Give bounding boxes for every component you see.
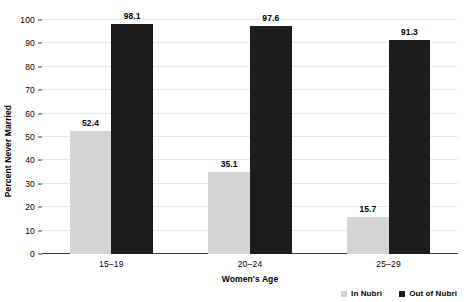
plot-area: 52.498.115–1935.197.620–2415.791.325–29: [42, 20, 458, 254]
legend-swatch: [399, 291, 405, 297]
y-tick-label: 40: [25, 155, 35, 165]
y-tick-label: 60: [25, 109, 35, 119]
bar-value-label: 52.4: [82, 118, 99, 128]
y-tick-label: 100: [20, 15, 35, 25]
legend: In NubriOut of Nubri: [341, 289, 457, 298]
y-tick-label: 70: [25, 85, 35, 95]
bar-group: 15.791.3: [347, 20, 430, 254]
bar-value-label: 91.3: [401, 27, 418, 37]
bars-layer: 52.498.115–1935.197.620–2415.791.325–29: [42, 20, 458, 254]
bar: 15.7: [347, 217, 389, 254]
legend-item: In Nubri: [341, 289, 382, 298]
bar: 91.3: [389, 40, 431, 254]
bar: 98.1: [111, 24, 153, 254]
legend-swatch: [341, 291, 347, 297]
legend-label: In Nubri: [351, 289, 382, 298]
y-tick-label: 0: [30, 249, 35, 259]
y-tick-label: 90: [25, 38, 35, 48]
y-axis-ticks: 0102030405060708090100: [0, 20, 42, 254]
x-category-label: 20–24: [238, 259, 263, 269]
bar-value-label: 97.6: [262, 13, 279, 23]
bar-chart: Percent Never Married 010203040506070809…: [0, 0, 467, 302]
y-tick-label: 20: [25, 202, 35, 212]
bar-value-label: 15.7: [359, 204, 376, 214]
y-tick-label: 30: [25, 179, 35, 189]
y-tick-label: 10: [25, 226, 35, 236]
bar-value-label: 98.1: [124, 11, 141, 21]
x-category-label: 25–29: [376, 259, 401, 269]
bar: 52.4: [70, 131, 112, 254]
bar: 35.1: [208, 172, 250, 254]
bar-group: 35.197.6: [208, 20, 291, 254]
bar-value-label: 35.1: [221, 159, 238, 169]
bar: 97.6: [250, 26, 292, 254]
bar-group: 52.498.1: [70, 20, 153, 254]
legend-label: Out of Nubri: [409, 289, 457, 298]
y-tick-label: 50: [25, 132, 35, 142]
x-category-label: 15–19: [99, 259, 124, 269]
y-tick-label: 80: [25, 62, 35, 72]
legend-item: Out of Nubri: [399, 289, 457, 298]
x-axis-title: Women's Age: [42, 274, 458, 284]
